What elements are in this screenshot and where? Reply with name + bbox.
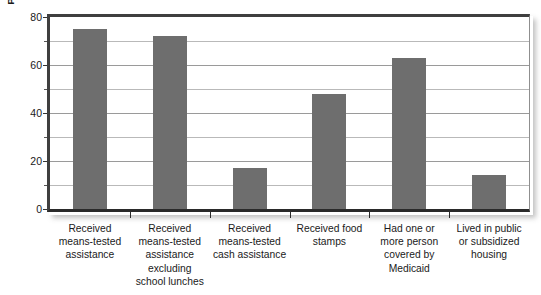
y-tick-label-60: 60 <box>16 60 42 70</box>
gridline-10 <box>50 185 529 186</box>
x-axis-label-5: Had one ormore personcovered byMedicaid <box>363 222 455 275</box>
y-tick-label-40: 40 <box>16 108 42 118</box>
x-label-line: Received <box>148 223 191 234</box>
gridline-40 <box>50 113 529 114</box>
y-tick-label-80: 80 <box>16 12 42 22</box>
x-label-line: school lunches <box>136 276 204 287</box>
x-label-line: cash assistance <box>213 249 286 260</box>
y-tick-label-20: 20 <box>16 156 42 166</box>
x-axis-separator-1 <box>130 212 131 218</box>
gridline-50 <box>50 89 529 90</box>
x-label-line: Received <box>68 223 111 234</box>
bar-5 <box>392 58 426 209</box>
bar-2 <box>153 36 187 209</box>
x-axis-separator-3 <box>290 212 291 218</box>
x-axis-label-3: Receivedmeans-testedcash assistance <box>204 222 296 262</box>
bar-6 <box>472 175 506 209</box>
x-axis-label-2: Receivedmeans-testedassistanceexcludings… <box>124 222 216 288</box>
gridline-70 <box>50 41 529 42</box>
gridline-60 <box>50 65 529 66</box>
x-label-line: Had one or <box>384 223 435 234</box>
x-label-line: means-tested <box>218 236 280 247</box>
x-label-line: excluding <box>148 263 192 274</box>
x-label-line: Received <box>228 223 271 234</box>
y-tick-label-0: 0 <box>16 204 42 214</box>
x-label-line: Medicaid <box>389 263 430 274</box>
x-label-line: housing <box>471 249 507 260</box>
x-axis-separator-4 <box>369 212 370 218</box>
x-axis-label-6: Lived in publicor subsidizedhousing <box>443 222 535 262</box>
x-axis-label-1: Receivedmeans-testedassistance <box>44 222 136 262</box>
x-axis-separator-2 <box>210 212 211 218</box>
x-label-line: means-tested <box>59 236 121 247</box>
x-axis-label-4: Received foodstamps <box>284 222 376 248</box>
bar-chart-figure: Percentage of Poor Who Partcipate 020406… <box>0 0 541 295</box>
x-label-line: covered by <box>384 249 434 260</box>
plot-area <box>47 14 530 212</box>
gridline-20 <box>50 161 529 162</box>
x-label-line: means-tested <box>139 236 201 247</box>
x-label-line: Received food <box>296 223 362 234</box>
x-label-line: Lived in public <box>456 223 521 234</box>
gridline-30 <box>50 137 529 138</box>
x-label-line: more person <box>380 236 438 247</box>
x-label-line: assistance <box>145 249 194 260</box>
x-label-line: assistance <box>66 249 115 260</box>
x-label-line: stamps <box>313 236 346 247</box>
bar-1 <box>73 29 107 209</box>
bar-4 <box>312 94 346 209</box>
x-axis-separator-5 <box>449 212 450 218</box>
x-label-line: or subsidized <box>459 236 520 247</box>
bar-3 <box>233 168 267 209</box>
